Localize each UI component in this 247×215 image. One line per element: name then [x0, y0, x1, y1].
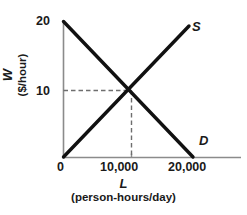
- labor-market-chart: W ($/hour) 20 10 0 10,000 20,000 S D L (…: [0, 0, 247, 215]
- supply-curve: [64, 26, 190, 157]
- plot-area: [0, 0, 247, 215]
